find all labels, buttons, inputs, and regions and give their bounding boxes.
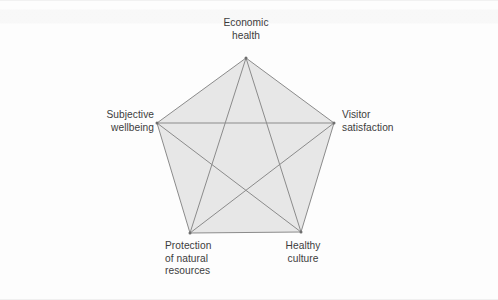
figure-page: Economic health Visitor satisfaction Hea…	[0, 0, 498, 300]
vertex-protection-of-natural-resources	[189, 232, 192, 235]
pentagon-fill	[157, 58, 334, 233]
pentagon-diagram	[0, 1, 498, 300]
vertex-economic-health	[245, 57, 248, 60]
vertex-visitor-satisfaction	[333, 122, 336, 125]
vertex-subjective-wellbeing	[156, 122, 159, 125]
vertex-healthy-culture	[300, 231, 303, 234]
